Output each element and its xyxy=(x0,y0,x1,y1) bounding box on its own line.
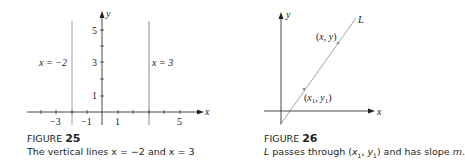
caption-m: m xyxy=(453,146,462,157)
point-x-y xyxy=(337,42,340,45)
figure-number: 25 xyxy=(65,132,80,145)
x-tick-label-neg1: −1 xyxy=(81,116,92,125)
x-tick-label-neg3: −3 xyxy=(50,116,61,125)
x-tick-label-1: 1 xyxy=(115,116,120,125)
figure-25-title: FIGURE 25 xyxy=(27,132,194,145)
figure-number: 26 xyxy=(302,132,317,145)
x-axis-arrow-icon xyxy=(197,110,204,115)
point-x1-y1 xyxy=(303,88,306,91)
figure-25-caption-text: The vertical lines x = −2 and x = 3 xyxy=(27,146,194,157)
y-axis-arrow-icon xyxy=(100,11,105,18)
x-axis-label: x xyxy=(376,106,382,117)
y-tick-label-1: 1 xyxy=(92,90,97,101)
figure-26-caption: FIGURE 26 L passes through (x1, y1) and … xyxy=(264,132,465,159)
figure-26-title: FIGURE 26 xyxy=(264,132,465,145)
line-L-label: L xyxy=(357,14,364,25)
y-axis-label: y xyxy=(105,8,111,19)
x-axis-arrow-icon xyxy=(368,109,375,114)
line-label-x-neg2: x = −2 xyxy=(38,57,67,68)
figure-25-caption: FIGURE 25 The vertical lines x = −2 and … xyxy=(27,132,194,157)
figure-26-graph: y x L (x, y) (x1, y1) xyxy=(210,0,420,130)
y-axis-label: y xyxy=(285,9,291,20)
y-axis-arrow-icon xyxy=(279,12,284,19)
figure-label: FIGURE xyxy=(264,133,299,144)
figure-25-graph: y x 5 3 1 −3 −1 1 5 x = −2 x = 3 xyxy=(0,0,210,125)
point-x1-y1-label: (x1, y1) xyxy=(304,92,332,105)
caption-text2: ) and has slope xyxy=(377,146,453,157)
x-tick-label-5: 5 xyxy=(177,116,182,125)
y-tick-label-5: 5 xyxy=(92,25,97,36)
line-label-x-3: x = 3 xyxy=(151,57,173,68)
caption-end: . xyxy=(462,146,465,157)
caption-text: passes through ( xyxy=(269,146,352,157)
figure-26-caption-text: L passes through (x1, y1) and has slope … xyxy=(264,146,465,159)
figure-label: FIGURE xyxy=(27,133,62,144)
point-x-y-label: (x, y) xyxy=(316,31,337,43)
y-tick-label-3: 3 xyxy=(92,57,97,68)
